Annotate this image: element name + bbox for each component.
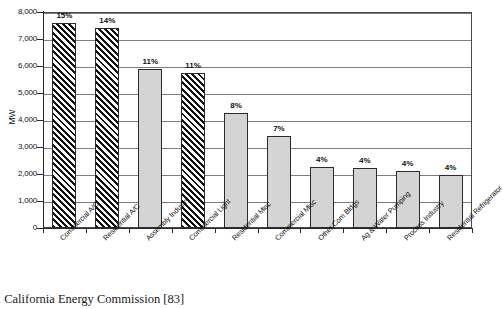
y-tick-mark xyxy=(37,201,43,202)
x-tick-mark xyxy=(343,229,344,233)
bar-percent-label: 14% xyxy=(87,16,127,25)
bar xyxy=(138,69,162,228)
x-tick-mark xyxy=(429,229,430,233)
y-tick-label-text: 8,000 xyxy=(1,8,37,16)
y-tick-mark xyxy=(37,12,43,13)
y-tick-label: 2,000 xyxy=(0,170,37,178)
y-axis-line xyxy=(43,11,44,229)
x-tick-mark xyxy=(43,229,44,233)
bar-percent-label: 8% xyxy=(216,101,256,110)
y-tick-label: 4,000 xyxy=(0,116,37,124)
x-tick-mark xyxy=(129,229,130,233)
bar xyxy=(310,167,334,228)
x-tick-mark xyxy=(300,229,301,233)
y-tick-label-text: 7,000 xyxy=(1,35,37,43)
x-tick-mark xyxy=(172,229,173,233)
y-tick-label: 0 xyxy=(0,224,37,232)
figure-caption: e: California Energy Commission [83] xyxy=(0,292,184,307)
y-tick-label-text: 4,000 xyxy=(1,116,37,124)
x-tick-mark xyxy=(86,229,87,233)
bar-percent-label: 15% xyxy=(44,11,84,20)
y-tick-label-text: 5,000 xyxy=(1,89,37,97)
y-tick-label: 1,000 xyxy=(0,197,37,205)
y-tick-label-text: 3,000 xyxy=(1,143,37,151)
y-tick-label: 6,000 xyxy=(0,62,37,70)
gridline xyxy=(44,13,471,14)
y-tick-label-text: 0 xyxy=(1,224,37,232)
y-tick-mark xyxy=(37,174,43,175)
bar xyxy=(224,113,248,228)
y-tick-label-text: 1,000 xyxy=(1,197,37,205)
y-tick-mark xyxy=(37,93,43,94)
bar xyxy=(52,23,76,228)
y-tick-label: 3,000 xyxy=(0,143,37,151)
bar xyxy=(95,28,119,228)
x-tick-mark xyxy=(472,229,473,233)
y-tick-label: 5,000 xyxy=(0,89,37,97)
y-tick-mark xyxy=(37,66,43,67)
bar-percent-label: 11% xyxy=(130,57,170,66)
x-tick-mark xyxy=(386,229,387,233)
bar-percent-label: 4% xyxy=(302,155,342,164)
y-tick-label: 7,000 xyxy=(0,35,37,43)
bar xyxy=(353,168,377,228)
y-tick-mark xyxy=(37,147,43,148)
x-tick-mark xyxy=(258,229,259,233)
y-tick-label-text: 6,000 xyxy=(1,62,37,70)
y-tick-mark xyxy=(37,39,43,40)
bar-percent-label: 7% xyxy=(259,124,299,133)
bar xyxy=(267,136,291,228)
bar-percent-label: 11% xyxy=(173,61,213,70)
x-tick-mark xyxy=(215,229,216,233)
y-tick-label-text: 2,000 xyxy=(1,170,37,178)
y-tick-label: 8,000 xyxy=(0,8,37,16)
bar-percent-label: 4% xyxy=(388,159,428,168)
bar-percent-label: 4% xyxy=(345,156,385,165)
y-tick-mark xyxy=(37,120,43,121)
bar-percent-label: 4% xyxy=(431,163,471,172)
